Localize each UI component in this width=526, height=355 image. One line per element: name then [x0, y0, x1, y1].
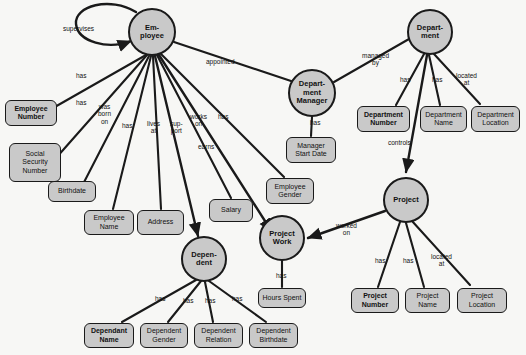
- attribute-social-security-number-label: Social Security Number: [22, 150, 47, 175]
- entity-dependent[interactable]: Depen- dent: [181, 236, 227, 282]
- attribute-project-number-label: Project Number: [362, 292, 388, 309]
- entity-dependent-label: Depen- dent: [191, 251, 216, 268]
- edge-employee-birthdate: [80, 56, 149, 190]
- attribute-department-location[interactable]: Department Location: [471, 106, 520, 132]
- attribute-address-label: Address: [148, 218, 174, 226]
- edge-label-has-project-name: has: [403, 257, 413, 264]
- attribute-dependent-gender[interactable]: Dependent Gender: [140, 323, 188, 348]
- attribute-dependant-name[interactable]: Dependant Name: [84, 323, 134, 348]
- attribute-social-security-number[interactable]: Social Security Number: [9, 143, 61, 182]
- edge-label-controls: controls: [388, 139, 411, 146]
- attribute-hours-spent[interactable]: Hours Spent: [258, 288, 306, 308]
- attribute-project-number[interactable]: Project Number: [351, 288, 399, 313]
- attribute-employee-gender-label: Employee Gender: [274, 183, 305, 200]
- attribute-employee-gender[interactable]: Employee Gender: [266, 178, 314, 204]
- edge-label-located-at-project: located at: [431, 253, 452, 268]
- attribute-birthdate-label: Birthdate: [58, 187, 86, 195]
- attribute-project-location-label: Project Location: [469, 292, 495, 309]
- attribute-dependant-name-label: Dependant Name: [91, 327, 127, 344]
- edge-label-has-department-number: has: [400, 76, 410, 83]
- edge-employee-name: [113, 56, 151, 209]
- entity-employee[interactable]: Em- ployee: [128, 8, 176, 56]
- edge-label-managed-by: managed by: [362, 52, 389, 67]
- entity-department[interactable]: Depart- ment: [407, 9, 453, 55]
- entity-project-work[interactable]: Project Work: [259, 215, 305, 261]
- edge-employee-number: [46, 55, 146, 112]
- attribute-department-name-label: Department Name: [425, 111, 462, 128]
- edge-label-has-employee-number: has: [76, 72, 86, 79]
- attribute-department-location-label: Department Location: [477, 111, 514, 128]
- attribute-employee-name-label: Employee Name: [93, 214, 124, 231]
- edge-project-number: [378, 222, 400, 287]
- attribute-employee-name[interactable]: Employee Name: [84, 210, 134, 235]
- attribute-project-name[interactable]: Project Name: [405, 288, 450, 313]
- entity-department-label: Depart- ment: [417, 24, 443, 41]
- attribute-address[interactable]: Address: [137, 210, 184, 235]
- attribute-salary-label: Salary: [221, 206, 241, 214]
- edge-label-works-on: works on: [190, 113, 207, 128]
- attribute-department-name[interactable]: Department Name: [420, 106, 467, 132]
- entity-department-manager[interactable]: Depart- ment Manager: [288, 69, 336, 117]
- edge-label-located-at-department: located at: [456, 72, 477, 87]
- attribute-project-name-label: Project Name: [417, 292, 439, 309]
- attribute-employee-number-label: Employee Number: [14, 105, 47, 122]
- attribute-dependent-birthdate-label: Dependent Birthdate: [256, 327, 290, 344]
- edge-label-has-ssn: has: [76, 99, 86, 106]
- edge-label-has-manager-start-date: has: [310, 119, 320, 126]
- attribute-employee-number[interactable]: Employee Number: [5, 100, 57, 126]
- edge-label-has-employee-name: has: [122, 122, 132, 129]
- edge-label-has-gender: has: [218, 113, 228, 120]
- attribute-manager-start-date-label: Manager Start Date: [295, 142, 327, 159]
- edge-label-supervises: supervises: [63, 25, 94, 32]
- edge-label-earns: earns: [198, 143, 214, 150]
- attribute-salary[interactable]: Salary: [209, 199, 253, 222]
- edge-label-has-project-number: has: [375, 257, 385, 264]
- attribute-manager-start-date[interactable]: Manager Start Date: [286, 137, 336, 163]
- attribute-dependent-gender-label: Dependent Gender: [147, 327, 181, 344]
- entity-project-label: Project: [393, 196, 418, 204]
- edge-label-has-department-name: has: [432, 76, 442, 83]
- entity-project[interactable]: Project: [383, 177, 429, 223]
- attribute-birthdate[interactable]: Birthdate: [48, 181, 96, 202]
- attribute-dependent-relation[interactable]: Dependent Relation: [194, 323, 243, 348]
- er-diagram-canvas: Em- ployee Depart- ment Manager Depart- …: [0, 0, 526, 355]
- edge-label-lives-at: lives at: [147, 120, 160, 135]
- entity-project-work-label: Project Work: [269, 230, 294, 247]
- edge-label-has-dependent-birthdate: has: [232, 295, 242, 302]
- edge-label-was-born-on: was born on: [98, 103, 111, 125]
- entity-employee-label: Em- ployee: [140, 24, 164, 41]
- edge-label-has-dependant-name: has: [155, 295, 165, 302]
- attribute-dependent-birthdate[interactable]: Dependent Birthdate: [249, 323, 298, 348]
- edge-label-has-dependent-relation: has: [205, 297, 215, 304]
- edge-label-appointed: appointed: [206, 58, 235, 65]
- attribute-department-number[interactable]: Department Number: [357, 106, 410, 132]
- edge-label-support: sup- port: [170, 120, 183, 135]
- entity-department-manager-label: Depart- ment Manager: [297, 80, 328, 105]
- edge-label-has-hours-spent: has: [276, 272, 286, 279]
- attribute-dependent-relation-label: Dependent Relation: [201, 327, 235, 344]
- edge-label-has-dependent-gender: has: [183, 297, 193, 304]
- edge-label-worked-on: worked on: [336, 222, 357, 237]
- attribute-project-location[interactable]: Project Location: [457, 288, 507, 313]
- attribute-department-number-label: Department Number: [364, 111, 403, 128]
- attribute-hours-spent-label: Hours Spent: [263, 294, 302, 302]
